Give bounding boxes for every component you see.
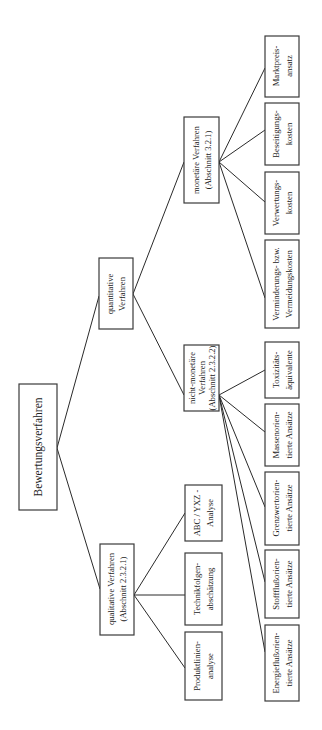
produktlinien-line1: Produktlinien-	[192, 641, 202, 691]
monetary-label-line2: (Abschnitt 3.2.1)	[203, 131, 213, 190]
node-toxizitaetsaequivalente: Toxizitäts- äquivalente	[265, 342, 299, 398]
quantitative-label-line1: quantitative	[105, 274, 115, 315]
node-massenorientierte-ansaetze: Massenorien- tierte Ansätze	[265, 404, 299, 466]
quantitative-label-line2: Verfahren	[117, 276, 127, 311]
produktlinien-box	[185, 632, 222, 700]
non-monetary-label-line2: Verfahren	[197, 360, 207, 395]
edge-root-quantitative	[57, 296, 99, 448]
verwertung-line2: kosten	[284, 191, 294, 214]
node-non-monetary: nicht-monetäre Verfahren (Abschnitt 2.3.…	[184, 345, 219, 411]
beseitigung-line1: Beseitigungs-	[271, 110, 281, 157]
energiefluss-line2: tierte Ansätze	[284, 639, 294, 686]
node-grenzwertorientierte-ansaetze: Grenzwertorien- tierte Ansätze	[265, 472, 299, 545]
node-root: Bewertungsverfahren	[19, 384, 57, 510]
non-monetary-label-line3: (Abschnitt 2.3.2.2)	[207, 345, 217, 410]
node-produktlinienanalyse: Produktlinien- analyse	[185, 632, 222, 700]
toxizitaet-line1: Toxizitäts-	[271, 352, 281, 389]
abc-analyse-line1: ABC / YXZ -	[192, 490, 202, 537]
root-label: Bewertungsverfahren	[32, 397, 45, 496]
edge-nm-stofffluss	[219, 395, 265, 582]
marktpreis-line1: Marktpreis-	[271, 46, 281, 87]
node-quantitative: quantitative Verfahren	[99, 258, 133, 329]
edge-qual-abc	[134, 513, 185, 595]
edges	[57, 68, 265, 668]
node-beseitigungskosten: Beseitigungs- kosten	[265, 103, 299, 165]
edge-mon-marktpreis	[219, 68, 265, 162]
node-stoffflussorientierte-ansaetze: Stoffflußorien- tierte Ansätze	[265, 550, 299, 618]
verminderung-line1: Verminderungs- bzw.	[271, 247, 281, 320]
produktlinien-line2: analyse	[205, 653, 215, 679]
edge-qual-produktlinien	[134, 595, 185, 668]
edge-nm-toxizitaet	[219, 370, 265, 395]
technikfolgen-line1: Technikfolgen-	[192, 563, 202, 616]
node-energieflussorientierte-ansaetze: Energieflußorien- tierte Ansätze	[265, 625, 299, 701]
qualitative-label-line2: (Abschnitt 2.3.2.1)	[118, 556, 128, 621]
toxizitaet-line2: äquivalente	[284, 350, 294, 390]
energiefluss-line1: Energieflußorien-	[271, 632, 281, 693]
edge-quantitative-monetary	[133, 162, 184, 294]
grenzwert-line1: Grenzwertorien-	[271, 479, 281, 536]
verwertung-line1: Verwertungs-	[271, 180, 281, 226]
verminderung-line2: Vermeidungskosten	[284, 249, 294, 317]
edge-quantitative-nonmonetary	[133, 294, 184, 395]
technikfolgen-line2: abschätzung	[205, 567, 215, 610]
massen-line1: Massenorien-	[271, 411, 281, 458]
node-verwertungskosten: Verwertungs- kosten	[265, 172, 299, 234]
node-marktpreisansatz: Marktpreis- ansatz	[265, 36, 299, 97]
marktpreis-line2: ansatz	[284, 55, 294, 77]
beseitigung-line2: kosten	[284, 122, 294, 145]
tree-diagram: Bewertungsverfahren quantitative Verfahr…	[0, 0, 322, 730]
edge-nm-energiefluss	[219, 395, 265, 652]
stofffluss-line2: tierte Ansätze	[284, 560, 294, 607]
node-verminderungskosten: Verminderungs- bzw. Vermeidungskosten	[265, 240, 299, 328]
non-monetary-label-line1: nicht-monetäre	[187, 352, 197, 404]
massen-line2: tierte Ansätze	[284, 411, 294, 458]
technikfolgen-box	[185, 553, 222, 625]
abc-analyse-line2: Analyse	[205, 499, 215, 527]
edge-root-qualitative	[57, 448, 100, 589]
monetary-box	[184, 117, 219, 203]
edge-nm-massen	[219, 395, 265, 432]
stofffluss-line1: Stoffflußorien-	[271, 558, 281, 609]
abc-analyse-box	[185, 485, 222, 541]
node-abc-analyse: ABC / YXZ - Analyse	[185, 485, 222, 541]
node-qualitative: qualitative Verfahren (Abschnitt 2.3.2.1…	[100, 544, 134, 635]
monetary-label-line1: monetäre Verfahren	[191, 125, 201, 194]
node-monetary: monetäre Verfahren (Abschnitt 3.2.1)	[184, 117, 219, 203]
node-technikfolgenabschaetzung: Technikfolgen- abschätzung	[185, 553, 222, 625]
qualitative-label-line1: qualitative Verfahren	[106, 552, 116, 625]
edge-mon-beseitigung	[219, 130, 265, 162]
grenzwert-line2: tierte Ansätze	[284, 484, 294, 531]
